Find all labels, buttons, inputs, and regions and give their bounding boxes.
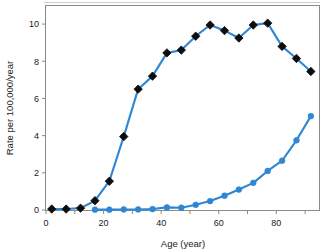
y-axis-ticks: 0246810 — [29, 19, 46, 215]
data-point-marker — [164, 204, 170, 210]
data-point-marker — [308, 113, 314, 119]
x-tick-label: 80 — [271, 218, 281, 228]
data-point-marker — [121, 207, 127, 213]
data-point-marker — [135, 207, 141, 213]
x-axis-label: Age (year) — [161, 238, 205, 249]
y-tick-label: 10 — [29, 19, 39, 29]
chart-figure: 0246810 020406080 Age (year) Rate per 10… — [0, 0, 332, 252]
x-tick-label: 0 — [43, 218, 48, 228]
data-point-marker — [207, 198, 213, 204]
data-point-marker — [178, 205, 184, 211]
x-tick-label: 20 — [99, 218, 109, 228]
data-point-marker — [222, 193, 228, 199]
data-point-marker — [92, 207, 98, 213]
y-tick-label: 4 — [34, 131, 39, 141]
data-point-marker — [76, 204, 84, 212]
data-point-marker — [48, 205, 56, 213]
y-tick-label: 6 — [34, 94, 39, 104]
line-chart: 0246810 020406080 Age (year) Rate per 10… — [0, 0, 332, 252]
y-tick-label: 8 — [34, 57, 39, 67]
data-point-marker — [265, 168, 271, 174]
data-point-marker — [120, 132, 128, 140]
y-tick-label: 0 — [34, 205, 39, 215]
data-point-marker — [236, 187, 242, 193]
data-series-layer — [48, 19, 316, 213]
y-tick-label: 2 — [34, 168, 39, 178]
data-point-marker — [62, 205, 70, 213]
data-point-marker — [250, 180, 256, 186]
data-point-marker — [279, 158, 285, 164]
y-axis-label: Rate per 100,000/year — [4, 61, 15, 156]
x-tick-label: 60 — [214, 218, 224, 228]
data-point-marker — [193, 202, 199, 208]
data-point-marker — [220, 26, 228, 34]
plot-frame — [46, 6, 320, 211]
black-diamond-series — [48, 19, 316, 213]
data-point-marker — [150, 206, 156, 212]
x-tick-label: 40 — [156, 218, 166, 228]
data-point-marker — [106, 207, 112, 213]
x-axis-ticks: 020406080 — [43, 210, 305, 228]
data-point-marker — [294, 137, 300, 143]
